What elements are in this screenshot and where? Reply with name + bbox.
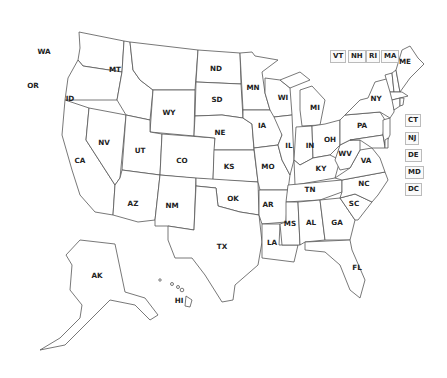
state-label-sd: SD <box>211 95 222 104</box>
state-me[interactable] <box>396 46 424 92</box>
state-label-co: CO <box>176 156 187 165</box>
state-ak[interactable] <box>40 240 158 350</box>
state-label-wa: WA <box>37 47 51 56</box>
state-label-ut: UT <box>135 146 146 155</box>
state-ks[interactable] <box>213 150 258 182</box>
state-label-il: IL <box>285 141 293 150</box>
state-label-al: AL <box>306 218 317 227</box>
state-label-ky: KY <box>316 164 328 173</box>
state-label-tx: TX <box>217 242 228 251</box>
state-box-vt[interactable]: VT <box>330 50 346 63</box>
state-label-wi: WI <box>278 93 289 102</box>
state-ri[interactable] <box>400 98 404 106</box>
state-box-de[interactable]: DE <box>405 149 422 162</box>
state-label-hi: HI <box>175 296 184 305</box>
state-label-az: AZ <box>128 199 139 208</box>
state-label-nm: NM <box>165 201 178 210</box>
state-label-ia: IA <box>258 121 267 130</box>
state-label-ca: CA <box>75 156 86 165</box>
state-label-sc: SC <box>349 199 359 208</box>
state-label-fl: FL <box>352 263 362 272</box>
state-az[interactable] <box>113 170 160 222</box>
state-label-pa: PA <box>357 121 368 130</box>
state-label-wy: WY <box>162 108 176 117</box>
state-label-ne: NE <box>215 128 226 137</box>
state-label-me: ME <box>399 57 411 66</box>
state-outlines <box>40 32 424 350</box>
state-label-va: VA <box>361 156 372 165</box>
state-box-ma[interactable]: MA <box>381 50 399 63</box>
state-label-nc: NC <box>358 179 369 188</box>
state-label-tn: TN <box>305 185 316 194</box>
state-label-ks: KS <box>224 162 235 171</box>
state-label-mt: MT <box>109 65 121 74</box>
state-de[interactable] <box>385 138 388 148</box>
state-label-ak: AK <box>91 271 103 280</box>
state-label-la: LA <box>267 238 278 247</box>
state-box-nj[interactable]: NJ <box>405 132 419 145</box>
state-label-ok: OK <box>227 194 239 203</box>
state-label-oh: OH <box>324 135 336 144</box>
state-label-ar: AR <box>262 200 274 209</box>
state-label-or: OR <box>27 81 39 90</box>
state-label-nv: NV <box>98 138 110 147</box>
state-label-ga: GA <box>331 218 343 227</box>
state-label-wv: WV <box>338 149 352 158</box>
state-label-id: ID <box>66 94 75 103</box>
state-box-md[interactable]: MD <box>405 166 424 179</box>
state-box-ri[interactable]: RI <box>366 50 380 63</box>
state-label-mn: MN <box>246 83 259 92</box>
state-label-in: IN <box>306 141 315 150</box>
state-label-ny: NY <box>370 94 382 103</box>
state-label-mo: MO <box>261 162 274 171</box>
state-box-dc[interactable]: DC <box>405 183 422 196</box>
state-box-ct[interactable]: CT <box>405 114 421 127</box>
state-label-mi: MI <box>310 103 320 112</box>
state-box-nh[interactable]: NH <box>348 50 366 63</box>
state-label-ms: MS <box>284 219 296 228</box>
state-label-nd: ND <box>210 64 222 73</box>
